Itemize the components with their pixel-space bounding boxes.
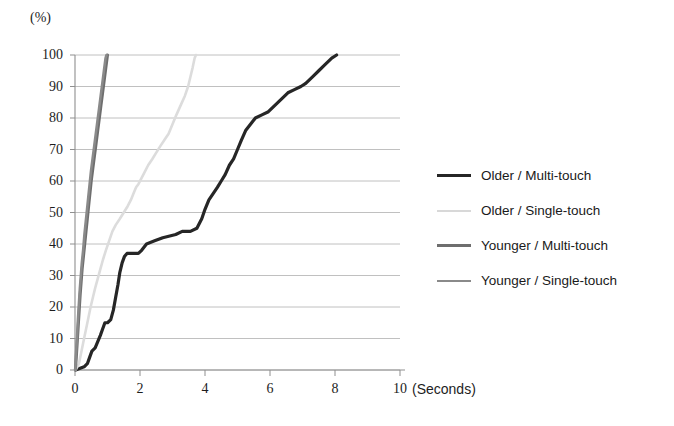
legend-item-label: Younger / Multi-touch: [481, 238, 608, 253]
legend-line-swatch: [437, 244, 471, 247]
x-axis-tick-label: 4: [193, 382, 217, 396]
legend-item: Younger / Single-touch: [437, 263, 669, 298]
legend-item-label: Older / Multi-touch: [481, 168, 591, 183]
axis-tick-marks: [70, 55, 400, 376]
y-axis-tick-label: 80: [27, 111, 63, 125]
chart-figure: (%) (Seconds) 0102030405060708090100 024…: [0, 0, 674, 426]
x-axis-tick-label: 8: [323, 382, 347, 396]
x-axis-unit-label: (Seconds): [412, 381, 476, 397]
legend-item-label: Younger / Single-touch: [481, 273, 617, 288]
y-axis-tick-label: 0: [27, 363, 63, 377]
chart-legend: Older / Multi-touchOlder / Single-touchY…: [437, 158, 669, 298]
legend-item-label: Older / Single-touch: [481, 203, 600, 218]
legend-item: Younger / Multi-touch: [437, 228, 669, 263]
legend-line-swatch: [437, 174, 471, 177]
y-axis-tick-label: 40: [27, 237, 63, 251]
y-axis-tick-label: 30: [27, 269, 63, 283]
y-axis-tick-label: 10: [27, 332, 63, 346]
legend-item: Older / Multi-touch: [437, 158, 669, 193]
y-axis-tick-label: 90: [27, 80, 63, 94]
y-axis-tick-label: 50: [27, 206, 63, 220]
y-axis-tick-label: 100: [27, 48, 63, 62]
legend-item: Older / Single-touch: [437, 193, 669, 228]
x-axis-tick-label: 6: [258, 382, 282, 396]
y-axis-tick-label: 60: [27, 174, 63, 188]
y-axis-tick-label: 20: [27, 300, 63, 314]
y-axis-unit-label: (%): [30, 10, 51, 26]
legend-line-swatch: [437, 210, 471, 212]
x-axis-tick-label: 2: [128, 382, 152, 396]
x-axis-tick-label: 10: [388, 382, 412, 396]
legend-line-swatch: [437, 280, 471, 282]
x-axis-tick-label: 0: [63, 382, 87, 396]
y-axis-tick-label: 70: [27, 143, 63, 157]
